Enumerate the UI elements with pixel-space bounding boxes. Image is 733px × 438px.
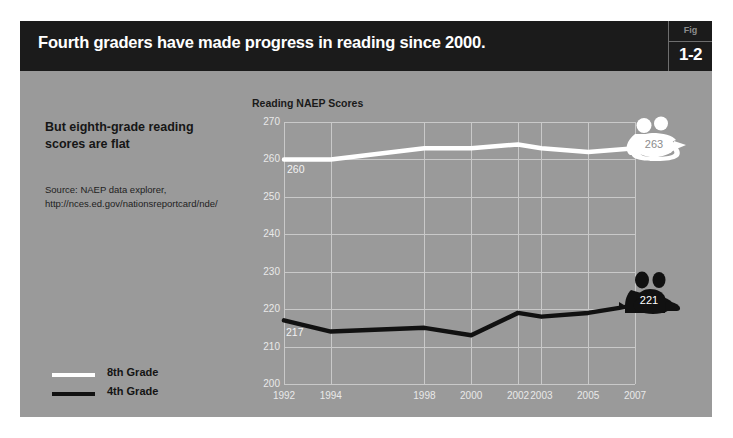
source-note: Source: NAEP data explorer, http://nces.… (45, 183, 255, 210)
y-axis-ticks: 270260250240230220210200 (252, 122, 280, 384)
x-axis-tick-label: 1992 (273, 390, 295, 401)
figure-divider (669, 41, 712, 42)
slide-panel: Fourth graders have made progress in rea… (20, 21, 712, 417)
page-title: Fourth graders have made progress in rea… (38, 33, 485, 52)
figure-label: Fig (669, 25, 712, 35)
x-axis-ticks: 19921994199820002002200320052007 (284, 390, 635, 406)
marker-4th-grade: 221 (619, 269, 689, 321)
y-axis-tick-label: 240 (250, 228, 280, 239)
y-axis-tick-label: 270 (250, 116, 280, 127)
chart-title: Reading NAEP Scores (252, 97, 363, 109)
y-axis-tick-label: 210 (250, 341, 280, 352)
legend-item-4th-grade: 4th Grade (52, 385, 232, 404)
x-axis-tick-label: 2005 (577, 390, 599, 401)
x-axis-tick-label: 2007 (624, 390, 646, 401)
x-axis-tick-label: 1998 (413, 390, 435, 401)
marker-value-263: 263 (633, 138, 675, 150)
gridline-horizontal (284, 384, 635, 385)
header-bar: Fourth graders have made progress in rea… (20, 21, 712, 71)
chart-legend: 8th Grade 4th Grade (52, 366, 232, 404)
plot-canvas: 260 217 (284, 122, 635, 384)
legend-item-8th-grade: 8th Grade (52, 366, 232, 385)
figure-number-box: Fig 1-2 (668, 21, 712, 71)
x-axis-tick-label: 2002 (507, 390, 529, 401)
legend-label-4th-grade: 4th Grade (107, 385, 158, 397)
x-axis-tick-label: 2000 (460, 390, 482, 401)
slide-page: Fourth graders have made progress in rea… (0, 0, 733, 438)
x-axis-tick-label: 1994 (320, 390, 342, 401)
y-axis-tick-label: 250 (250, 191, 280, 202)
start-label-8th-grade: 260 (287, 163, 305, 175)
source-line-1: Source: NAEP data explorer, (45, 183, 255, 197)
legend-swatch-8th-grade (52, 373, 95, 377)
line-4th-grade (284, 305, 635, 335)
y-axis-tick-label: 230 (250, 266, 280, 277)
figure-number: 1-2 (669, 45, 712, 65)
series-lines (284, 122, 635, 384)
subhead-text: But eighth-grade reading scores are flat (45, 119, 235, 153)
line-8th-grade (284, 144, 635, 159)
marker-value-221: 221 (627, 294, 671, 306)
legend-swatch-4th-grade (52, 392, 95, 396)
source-line-2: http://nces.ed.gov/nationsreportcard/nde… (45, 197, 255, 211)
y-axis-tick-label: 200 (250, 378, 280, 389)
start-label-4th-grade: 217 (286, 326, 304, 338)
x-axis-tick-label: 2003 (530, 390, 552, 401)
y-axis-tick-label: 220 (250, 303, 280, 314)
marker-8th-grade: 263 (621, 114, 691, 166)
legend-label-8th-grade: 8th Grade (107, 366, 158, 378)
y-axis-tick-label: 260 (250, 153, 280, 164)
chart-plot-area: 270260250240230220210200 260 217 (252, 111, 692, 416)
